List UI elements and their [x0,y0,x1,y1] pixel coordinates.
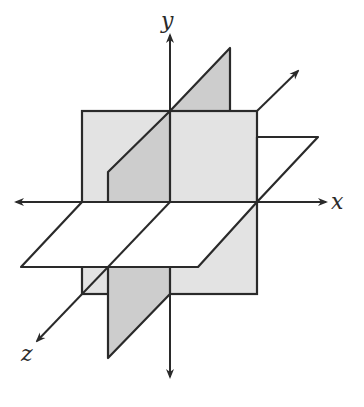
x-axis-label: x [331,189,344,214]
xz-plane-back [257,137,318,202]
yz-plane-lower [108,267,170,358]
z-axis-positive [37,267,108,341]
z-axis-negative [257,71,298,111]
coordinate-planes-diagram: y x z [0,0,364,407]
z-axis-label: z [20,341,33,366]
yz-plane-back [170,48,230,111]
y-axis-label: y [160,8,174,33]
